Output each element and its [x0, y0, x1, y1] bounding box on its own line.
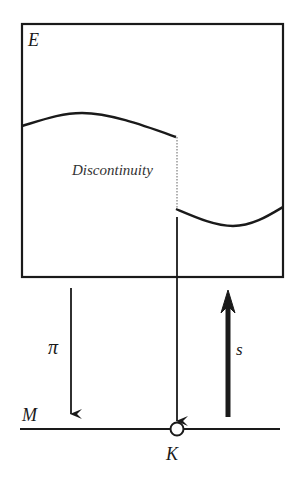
section-curve-left: [22, 113, 176, 137]
point-k-marker: [171, 423, 184, 436]
label-discontinuity: Discontinuity: [71, 162, 153, 178]
label-projection: π: [48, 336, 59, 358]
section-curve-right: [176, 207, 283, 226]
label-point-k: K: [165, 444, 179, 464]
label-total-space: E: [27, 30, 39, 50]
total-space-box: [22, 24, 283, 277]
label-section: s: [236, 340, 243, 359]
label-base-space: M: [21, 405, 38, 425]
fiber-bundle-diagram: E Discontinuity π s M K: [0, 0, 299, 485]
